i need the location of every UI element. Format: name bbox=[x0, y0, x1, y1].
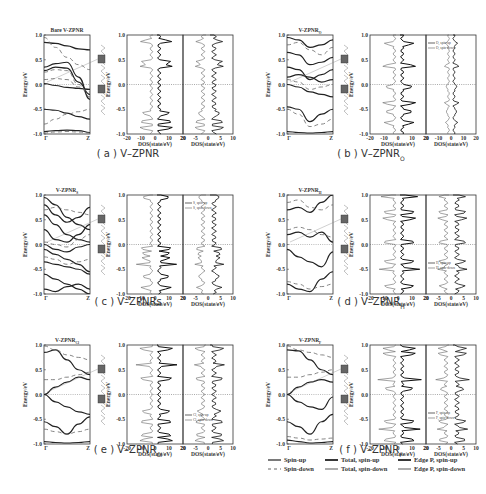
band-spin-up-line bbox=[287, 107, 333, 122]
band-ytick-label: -0.5 bbox=[33, 106, 42, 112]
edge-legend-label: S, spin-down bbox=[193, 206, 212, 211]
band-ytick-label: -1.0 bbox=[33, 131, 42, 137]
band-title-subscript: H bbox=[319, 191, 322, 195]
edge-dos-xlabel: DOS(state/eV) bbox=[191, 301, 225, 308]
dos-ytick-label: -0.5 bbox=[116, 106, 125, 112]
band-ytick-label: -0.5 bbox=[33, 416, 42, 422]
panel-e: V-ZPNRCl1.00.50.0-0.5-1.0ΓZEnergy/eV-20-… bbox=[22, 337, 236, 458]
band-ytick-label: 0.5 bbox=[35, 217, 42, 223]
edge-dos-xtick-label: 10 bbox=[230, 445, 236, 451]
edge-dos-xtick-label: 10 bbox=[473, 295, 479, 301]
figure-legend: Spin-upSpin-downTotal, spin-upTotal, spi… bbox=[268, 456, 466, 472]
total-dos-spin-down-trace bbox=[383, 35, 396, 134]
edge-dos-xtick-label: 10 bbox=[230, 135, 236, 141]
band-spin-up-line bbox=[287, 195, 333, 212]
dos-ytick-label: 0.0 bbox=[361, 82, 368, 88]
edge-legend-label: O, spin-down bbox=[436, 46, 455, 51]
band-xtick-label: Γ bbox=[44, 135, 48, 141]
band-spin-down-line bbox=[287, 42, 333, 54]
molecule-bond bbox=[344, 45, 348, 55]
edge-dos-plot: 20-1001020DOS(state/eV)O, spin-upO, spin… bbox=[423, 35, 479, 148]
total-dos-frame bbox=[370, 195, 426, 294]
band-ytick-label: 1.0 bbox=[35, 342, 42, 348]
band-spin-up-line bbox=[287, 395, 333, 410]
edge-dos-xtick-label: 20 bbox=[180, 295, 186, 301]
edge-dos-plot: 20-50510DOS(state/eV)F, spin-upF, spin-d… bbox=[423, 345, 479, 458]
panel-d: V-ZPNRH1.00.50.0-0.5-1.0ΓZEnergy/eV-20-1… bbox=[265, 187, 479, 310]
panel-caption-subscript: F bbox=[399, 451, 403, 458]
legend-label: Edge P, spin-down bbox=[414, 465, 466, 472]
dos-ytick-label: -0.5 bbox=[359, 416, 368, 422]
total-dos-frame bbox=[127, 195, 183, 294]
molecule-bond bbox=[101, 355, 105, 365]
band-spin-up-line bbox=[44, 225, 90, 242]
molecule-bond bbox=[101, 105, 105, 115]
band-spin-up-line bbox=[287, 350, 333, 375]
band-spin-up-line bbox=[44, 205, 90, 222]
orbital-blob-up bbox=[98, 55, 105, 63]
molecule-structure bbox=[98, 205, 105, 275]
total-dos-plot: -20-1001020DOS(state/eV) bbox=[123, 35, 186, 148]
dos-ylabel: Energy/eV bbox=[105, 382, 111, 407]
panel-caption-subscript: H bbox=[400, 303, 405, 310]
dos-ylabel: Energy/eV bbox=[105, 232, 111, 257]
legend-label: Edge P, spin-up bbox=[414, 456, 458, 463]
molecule-structure bbox=[98, 45, 105, 115]
dos-ytick-label: 0.5 bbox=[361, 367, 368, 373]
total-dos-plot: -20-1001020DOS(state/eV) bbox=[123, 195, 186, 308]
band-ytick-label: -1.0 bbox=[276, 131, 285, 137]
band-ytick-label: 1.0 bbox=[278, 32, 285, 38]
molecule-bond bbox=[344, 415, 348, 425]
band-xtick-label: Γ bbox=[287, 295, 291, 301]
band-ytick-label: 1.0 bbox=[35, 192, 42, 198]
orbital-blob-up bbox=[98, 365, 105, 373]
band-spin-up-line bbox=[44, 249, 90, 271]
edge-dos-xtick-label: 20 bbox=[423, 295, 429, 301]
total-dos-plot: -20-1001020DOS(state/eV) bbox=[366, 35, 429, 148]
molecule-bond bbox=[344, 355, 348, 365]
band-title: Bare V-ZPNR bbox=[51, 27, 85, 33]
band-ytick-label: -0.5 bbox=[276, 416, 285, 422]
band-ytick-label: 0.0 bbox=[35, 82, 42, 88]
total-dos-frame bbox=[127, 345, 183, 444]
molecule-structure bbox=[341, 355, 348, 425]
molecule-bond bbox=[101, 45, 105, 55]
band-spin-up-line bbox=[287, 272, 333, 292]
panel-caption: ( d ) V–ZPNRH bbox=[337, 296, 404, 310]
band-spin-up-line bbox=[287, 67, 333, 79]
band-title: V-ZPNRS bbox=[56, 187, 78, 195]
total-dos-frame bbox=[127, 35, 183, 134]
band-ytick-label: 0.5 bbox=[278, 217, 285, 223]
band-ytick-label: 0.0 bbox=[35, 242, 42, 248]
edge-dos-spin-down-trace bbox=[194, 345, 206, 444]
edge-dos-xtick-label: 20 bbox=[423, 445, 429, 451]
orbital-blob-up bbox=[98, 215, 105, 223]
orbital-blob-down bbox=[98, 245, 105, 253]
edge-dos-xtick-label: 20 bbox=[473, 135, 479, 141]
edge-dos-xtick-label: 20 bbox=[423, 135, 429, 141]
band-spin-up-line bbox=[44, 442, 90, 443]
legend-label: Total, spin-down bbox=[341, 465, 388, 472]
edge-dos-xlabel: DOS(state/eV) bbox=[191, 451, 225, 458]
dos-ytick-label: 1.0 bbox=[118, 32, 125, 38]
band-ytick-label: -0.5 bbox=[276, 266, 285, 272]
band-spin-up-line bbox=[44, 377, 90, 394]
band-spin-down-line bbox=[44, 346, 90, 360]
band-ytick-label: 0.5 bbox=[35, 367, 42, 373]
band-ytick-label: -0.5 bbox=[33, 266, 42, 272]
orbital-blob-down bbox=[341, 245, 348, 253]
molecule-structure bbox=[98, 355, 105, 425]
edge-dos-spin-up-trace bbox=[453, 345, 469, 444]
dos-ytick-label: -1.0 bbox=[116, 131, 125, 137]
dos-ytick-label: -0.5 bbox=[116, 416, 125, 422]
edge-dos-xlabel: DOS(state/eV) bbox=[191, 141, 225, 148]
band-xtick-label: Γ bbox=[287, 445, 291, 451]
dos-ytick-label: 1.0 bbox=[361, 342, 368, 348]
band-ytick-label: 0.0 bbox=[278, 82, 285, 88]
band-ylabel: Energy/eV bbox=[22, 232, 28, 257]
panel-c: V-ZPNRS1.00.50.0-0.5-1.0ΓZEnergy/eV-20-1… bbox=[22, 187, 236, 308]
band-spin-up-line bbox=[287, 414, 333, 434]
orbital-blob-up bbox=[341, 215, 348, 223]
band-ytick-label: 0.5 bbox=[278, 367, 285, 373]
total-dos-plot: -20-1001020DOS(state/eV) bbox=[123, 345, 186, 458]
